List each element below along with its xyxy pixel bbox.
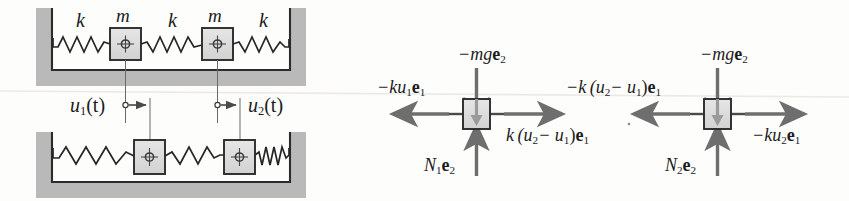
label-m-left: m [116,6,130,25]
label-k-left: k [76,10,85,30]
top-springs [53,37,289,52]
label-u1: u1(t) [70,95,105,118]
spring-left-bottom [53,147,134,164]
label-u2: u2(t) [248,95,283,118]
spring-middle-bottom [165,147,224,164]
displacement-dimension-u1 [123,102,146,107]
label-right-spring-force-2: −ku2e1 [752,126,800,146]
label-normal-force-2: N2e2 [665,156,696,176]
bottom-system-enclosure [36,132,306,198]
label-gravity-force-1: −mge2 [458,45,506,65]
spring-right-top [233,37,289,52]
label-k-middle: k [168,10,177,30]
displacement-dimension-u2 [215,102,236,107]
spring-left-top [53,37,110,52]
label-coupling-force-1: k (u2− u1)e1 [506,126,589,146]
spring-middle-top [141,37,202,52]
label-gravity-force-2: −mge2 [700,45,748,65]
label-left-spring-force-1: −ku1e1 [377,78,425,98]
label-coupling-force-2: −k (u2− u1)e1 [566,78,661,98]
spring-right-bottom [255,147,289,165]
label-m-right: m [208,6,222,25]
label-normal-force-1: N1e2 [424,156,455,176]
scan-speck [628,123,631,126]
label-k-right: k [259,10,268,30]
